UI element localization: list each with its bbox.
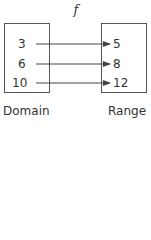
domain-caption: Domain [3,104,50,118]
range-caption: Range [108,104,146,118]
